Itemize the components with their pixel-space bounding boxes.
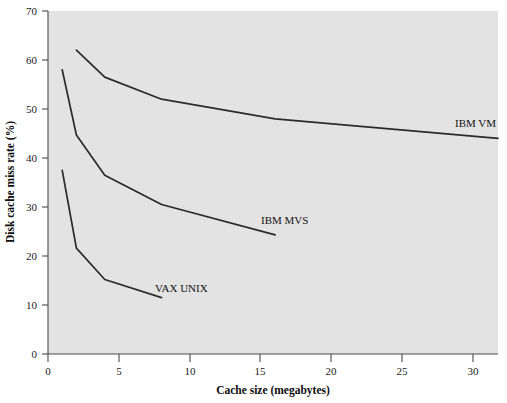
y-tick-label-50: 50 — [26, 103, 38, 115]
series-label-ibm-mvs: IBM MVS — [261, 214, 308, 226]
series-label-vax-unix: VAX UNIX — [155, 282, 208, 294]
x-axis-ticks — [48, 354, 473, 362]
y-tick-label-60: 60 — [26, 54, 38, 66]
y-axis-tick-labels: 70 60 50 40 30 20 10 0 — [26, 5, 38, 360]
y-tick-label-20: 20 — [26, 250, 38, 262]
y-tick-label-40: 40 — [26, 152, 38, 164]
x-tick-label-0: 0 — [45, 365, 51, 377]
x-tick-label-20: 20 — [326, 365, 338, 377]
y-axis-ticks — [42, 11, 48, 354]
x-tick-label-15: 15 — [255, 365, 267, 377]
x-tick-label-10: 10 — [185, 365, 197, 377]
chart-svg: 70 60 50 40 30 20 10 0 0 5 10 15 20 25 3… — [0, 0, 507, 403]
y-axis-title: Disk cache miss rate (%) — [4, 121, 17, 243]
y-tick-label-0: 0 — [32, 348, 38, 360]
x-tick-label-5: 5 — [116, 365, 122, 377]
x-axis-title: Cache size (megabytes) — [216, 384, 330, 397]
disk-cache-miss-rate-chart: 70 60 50 40 30 20 10 0 0 5 10 15 20 25 3… — [0, 0, 507, 403]
y-tick-label-10: 10 — [26, 299, 38, 311]
series-label-ibm-vm: IBM VM — [455, 117, 496, 129]
y-tick-label-70: 70 — [26, 5, 38, 17]
x-tick-label-25: 25 — [397, 365, 409, 377]
x-axis-tick-labels: 0 5 10 15 20 25 30 — [45, 365, 479, 377]
y-tick-label-30: 30 — [26, 201, 38, 213]
x-tick-label-30: 30 — [468, 365, 480, 377]
plot-area-background — [48, 11, 498, 354]
